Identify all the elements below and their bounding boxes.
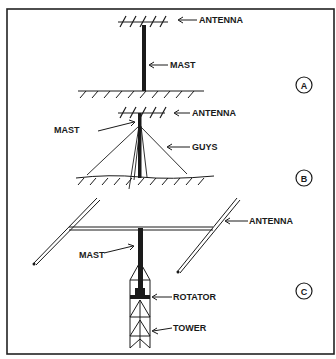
- label-antenna-a: ANTENNA: [199, 15, 243, 25]
- antenna-b-icon: [118, 107, 166, 118]
- ground-b-icon: [76, 176, 214, 185]
- guy-wires-icon: [87, 126, 187, 189]
- panel-c: ANTENNA MAST ROTATOR TOWER C: [33, 198, 313, 348]
- label-antenna-b: ANTENNA: [192, 108, 236, 118]
- mast-b: [138, 113, 142, 178]
- badge-a-label: A: [301, 81, 308, 91]
- mast-a: [142, 25, 146, 91]
- arrow-mast-c: [104, 246, 133, 253]
- badge-b-label: B: [301, 174, 308, 184]
- label-mast-b: MAST: [54, 125, 80, 135]
- ground-a-icon: [78, 91, 204, 98]
- label-mast-a: MAST: [170, 60, 196, 70]
- panel-b: ANTENNA MAST GUYS B: [54, 107, 312, 189]
- rotator-icon: [135, 288, 145, 296]
- label-rotator: ROTATOR: [173, 292, 216, 302]
- arrow-mast-b: [98, 122, 134, 131]
- antenna-c-icon: [33, 198, 240, 273]
- label-guys: GUYS: [192, 142, 218, 152]
- panel-a: ANTENNA MAST A: [78, 15, 312, 98]
- label-antenna-c: ANTENNA: [249, 216, 293, 226]
- antenna-diagram: ANTENNA MAST A: [0, 0, 336, 359]
- label-mast-c: MAST: [79, 250, 105, 260]
- label-tower: TOWER: [173, 323, 207, 333]
- badge-c-label: C: [301, 287, 308, 297]
